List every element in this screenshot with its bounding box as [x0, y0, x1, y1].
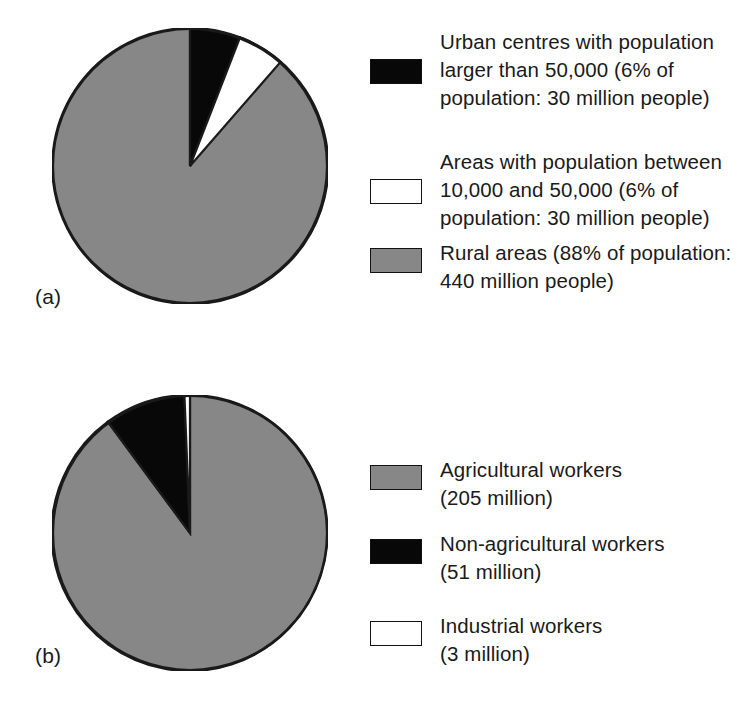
legend-swatch-gray-icon — [370, 465, 422, 490]
figure-root: (a) Urban centres with population larger… — [0, 0, 753, 703]
pie-chart-a — [52, 28, 328, 304]
pie-chart-b-svg — [52, 395, 328, 671]
legend-swatch-white-icon — [370, 621, 422, 646]
legend-swatch-black-icon — [370, 59, 422, 84]
legend-label-agricultural-workers: Agricultural workers (205 million) — [440, 456, 622, 512]
legend-label-industrial-workers: Industrial workers (3 million) — [440, 612, 602, 668]
legend-item-industrial-workers[interactable]: Industrial workers (3 million) — [370, 616, 745, 668]
legend-label-urban-centres: Urban centres with population larger tha… — [440, 28, 714, 112]
legend-swatch-gray-icon — [370, 248, 422, 273]
pie-chart-a-svg — [52, 28, 328, 304]
legend-item-agricultural-workers[interactable]: Agricultural workers (205 million) — [370, 460, 745, 512]
legend-label-non-agricultural-workers: Non-agricultural workers (51 million) — [440, 530, 665, 586]
legend-item-urban-centres[interactable]: Urban centres with population larger tha… — [370, 32, 745, 112]
panel-label-a: (a) — [35, 286, 61, 307]
legend-item-non-agricultural-workers[interactable]: Non-agricultural workers (51 million) — [370, 534, 745, 586]
legend-item-intermediate-areas[interactable]: Areas with population between 10,000 and… — [370, 152, 745, 232]
legend-swatch-white-icon — [370, 179, 422, 204]
panel-label-b: (b) — [35, 645, 61, 666]
legend-swatch-black-icon — [370, 539, 422, 564]
legend-item-rural-areas[interactable]: Rural areas (88% of population: 440 mill… — [370, 243, 745, 295]
legend-label-rural-areas: Rural areas (88% of population: 440 mill… — [440, 239, 731, 295]
pie-chart-b — [52, 395, 328, 671]
legend-label-intermediate-areas: Areas with population between 10,000 and… — [440, 148, 722, 232]
